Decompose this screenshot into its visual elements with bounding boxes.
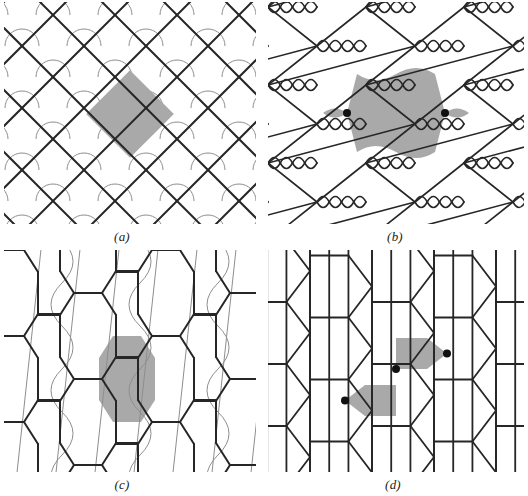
panel-d-drawing — [268, 250, 524, 472]
panel-b — [268, 2, 524, 224]
panel-b-drawing — [268, 2, 524, 224]
panel-d-shaded-cell — [345, 338, 447, 416]
figure-container: (a) (b) (c) (d) — [0, 0, 528, 496]
panel-label-d: (d) — [373, 477, 413, 493]
panel-a-drawing — [4, 2, 256, 224]
panel-d — [268, 250, 524, 472]
panel-c-drawing — [4, 250, 256, 472]
panel-label-a: (a) — [102, 229, 142, 245]
panel-a — [4, 2, 256, 224]
panel-label-c: (c) — [102, 477, 142, 493]
panel-c-shaded-cell — [99, 336, 155, 422]
panel-c — [4, 250, 256, 472]
panel-a-shaded-cell — [86, 70, 174, 158]
panel-label-b: (b) — [375, 229, 415, 245]
